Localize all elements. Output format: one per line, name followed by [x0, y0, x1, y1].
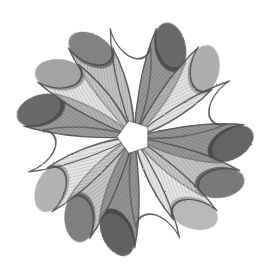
rosette-drawing	[0, 0, 270, 275]
artwork-canvas	[0, 0, 270, 275]
